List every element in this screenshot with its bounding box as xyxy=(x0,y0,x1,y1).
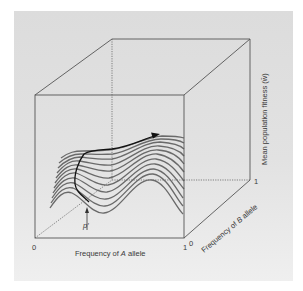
depth-axis-label: Frequency of B allele xyxy=(200,202,260,254)
box-front-edges xyxy=(35,39,250,238)
y-axis-tick-1: 1 xyxy=(254,177,258,186)
fitness-landscape-diagram: p′ 0 1 0 1 Frequency of A allele Frequen… xyxy=(0,0,303,291)
marker-arrow-up-icon xyxy=(85,207,89,213)
fitness-axis-label: Mean population fitness (w̄) xyxy=(260,73,269,165)
y-axis-tick-0: 0 xyxy=(189,239,193,248)
x-axis-tick-0: 0 xyxy=(32,243,36,252)
x-axis-label: Frequency of A allele xyxy=(75,249,145,258)
x-axis-tick-1: 1 xyxy=(183,243,187,252)
p-prime-label: p′ xyxy=(82,221,89,230)
p-prime-marker: p′ xyxy=(82,207,89,230)
